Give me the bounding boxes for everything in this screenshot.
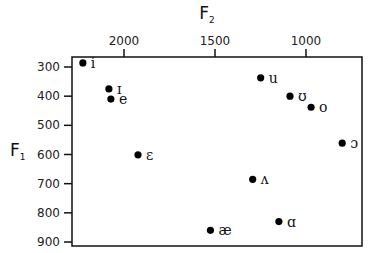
vowel-point: ɔ	[339, 135, 359, 151]
data-dot	[286, 93, 293, 100]
data-dot	[105, 85, 112, 92]
vowel-label: o	[319, 99, 327, 115]
vowel-formant-chart: F2 F1 200015001000 300400500600700800900…	[0, 0, 370, 253]
vowel-label: ɔ	[350, 135, 358, 151]
vowel-point: æ	[207, 222, 232, 238]
data-dot	[257, 74, 264, 81]
data-dot	[339, 140, 346, 147]
data-dot	[107, 95, 114, 102]
vowel-point: ʊ	[286, 88, 306, 104]
y-tick-label: 400	[37, 89, 60, 103]
data-dot	[249, 176, 256, 183]
vowel-point: u	[257, 70, 278, 86]
y-axis-ticks: 300400500600700800900	[37, 60, 72, 249]
data-dot	[79, 59, 86, 66]
vowel-label: ɑ	[287, 214, 296, 230]
y-tick-label: 300	[37, 60, 60, 74]
y-tick-label: 700	[37, 177, 60, 191]
y-tick-label: 600	[37, 148, 60, 162]
vowel-label: ʌ	[260, 171, 269, 187]
vowel-label: u	[269, 70, 278, 86]
y-tick-label: 500	[37, 118, 60, 132]
x-tick-label: 1000	[291, 34, 322, 48]
data-dot	[307, 104, 314, 111]
vowel-label: ʊ	[298, 88, 307, 104]
data-dot	[207, 227, 214, 234]
x-tick-label: 1500	[200, 34, 231, 48]
x-axis-title: F2	[199, 3, 215, 25]
data-dot	[134, 151, 141, 158]
y-tick-label: 900	[37, 235, 60, 249]
vowel-point: ʌ	[249, 171, 269, 187]
y-axis-title: F1	[10, 140, 26, 162]
vowel-points: iɪeɛæʌɑuʊoɔ	[79, 55, 358, 238]
plot-frame	[72, 57, 362, 246]
vowel-point: o	[307, 99, 327, 115]
vowel-label: æ	[218, 222, 231, 238]
x-axis-ticks: 200015001000	[109, 34, 322, 57]
vowel-label: e	[119, 91, 127, 107]
vowel-point: ɑ	[275, 214, 296, 230]
data-dot	[275, 218, 282, 225]
vowel-label: ɛ	[146, 147, 153, 163]
vowel-label: i	[91, 55, 96, 71]
y-tick-label: 800	[37, 206, 60, 220]
vowel-point: ɛ	[134, 147, 153, 163]
x-tick-label: 2000	[109, 34, 140, 48]
